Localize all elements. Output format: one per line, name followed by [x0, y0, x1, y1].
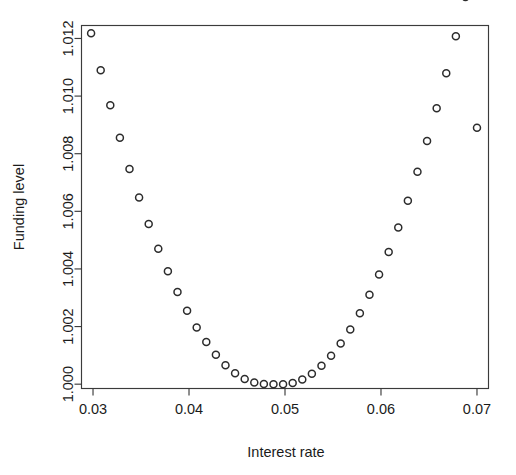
data-point [473, 124, 480, 131]
data-point [116, 134, 123, 141]
x-tick-label: 0.07 [463, 401, 491, 417]
data-point [395, 224, 402, 231]
x-tick-label: 0.06 [367, 401, 395, 417]
data-point [376, 271, 383, 278]
x-axis-title: Interest rate [247, 444, 324, 460]
data-point [289, 380, 296, 387]
data-point [366, 291, 373, 298]
data-point [193, 324, 200, 331]
data-point [433, 105, 440, 112]
data-point [318, 362, 325, 369]
data-point [126, 165, 133, 172]
data-point [404, 197, 411, 204]
data-point [414, 168, 421, 175]
data-point [424, 138, 431, 145]
data-point [299, 376, 306, 383]
y-tick-label: 1.006 [61, 193, 77, 229]
data-point [356, 310, 363, 317]
data-point [136, 194, 143, 201]
y-tick-label: 1.000 [61, 366, 77, 402]
data-point [88, 30, 95, 37]
data-point [308, 370, 315, 377]
data-point [443, 70, 450, 77]
data-point [347, 326, 354, 333]
data-point [222, 362, 229, 369]
data-point [164, 268, 171, 275]
data-point [97, 67, 104, 74]
y-tick-label: 1.002 [61, 308, 77, 344]
data-point [280, 381, 287, 388]
data-point-layer [88, 0, 481, 388]
chart-figure: 1.0001.0021.0041.0061.0081.0101.012 0.03… [0, 0, 516, 475]
data-point [155, 245, 162, 252]
plot-panel-border [82, 26, 489, 389]
x-tick-label: 0.03 [79, 401, 107, 417]
y-tick-label: 1.004 [61, 251, 77, 287]
y-axis-ticks: 1.0001.0021.0041.0061.0081.0101.012 [61, 20, 82, 402]
y-tick-label: 1.012 [61, 20, 77, 56]
x-axis-ticks: 0.030.040.050.060.07 [79, 389, 491, 417]
data-point [328, 352, 335, 359]
data-point [232, 370, 239, 377]
data-point [203, 339, 210, 346]
y-tick-label: 1.010 [61, 78, 77, 114]
data-point [212, 351, 219, 358]
data-point [174, 288, 181, 295]
scatter-plot-svg: 1.0001.0021.0041.0061.0081.0101.012 0.03… [0, 0, 516, 475]
data-point [145, 220, 152, 227]
x-tick-label: 0.04 [175, 401, 203, 417]
data-point [385, 248, 392, 255]
data-point [241, 375, 248, 382]
data-point [260, 380, 267, 387]
y-axis-title: Funding level [11, 164, 27, 250]
data-point [270, 381, 277, 388]
data-point [251, 379, 258, 386]
data-point [107, 102, 114, 109]
data-point [337, 340, 344, 347]
data-point [452, 33, 459, 40]
x-tick-label: 0.05 [271, 401, 299, 417]
y-tick-label: 1.008 [61, 136, 77, 172]
data-point [184, 307, 191, 314]
